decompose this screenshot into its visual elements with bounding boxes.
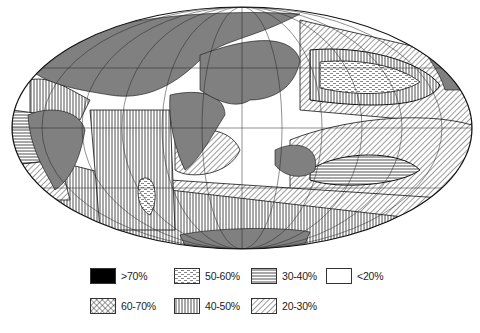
- legend-item-gt70: >70%: [90, 268, 147, 284]
- blank-swatch-icon: [326, 268, 352, 284]
- vertical-lines-swatch-icon: [174, 298, 200, 314]
- legend-label: 30-40%: [282, 270, 317, 282]
- legend: >70% 50-60% 30-40% <20% 60-70% 40-50% 20…: [0, 256, 480, 333]
- legend-label: 50-60%: [205, 270, 240, 282]
- land-antarctica: [180, 228, 310, 256]
- legend-item-60-70: 60-70%: [90, 298, 156, 314]
- legend-item-40-50: 40-50%: [174, 298, 240, 314]
- diagonal-lines-swatch-icon: [251, 298, 277, 314]
- solid-black-swatch-icon: [90, 268, 116, 284]
- legend-label: 60-70%: [121, 300, 156, 312]
- horizontal-lines-swatch-icon: [251, 268, 277, 284]
- legend-item-30-40: 30-40%: [251, 268, 317, 284]
- legend-label: <20%: [357, 270, 383, 282]
- world-map: [0, 0, 480, 256]
- crosshatch-swatch-icon: [90, 298, 116, 314]
- legend-label: 20-30%: [282, 300, 317, 312]
- legend-item-20-30: 20-30%: [251, 298, 317, 314]
- legend-item-lt20: <20%: [326, 268, 383, 284]
- legend-label: 40-50%: [205, 300, 240, 312]
- dashes-swatch-icon: [174, 268, 200, 284]
- legend-item-50-60: 50-60%: [174, 268, 240, 284]
- legend-label: >70%: [121, 270, 147, 282]
